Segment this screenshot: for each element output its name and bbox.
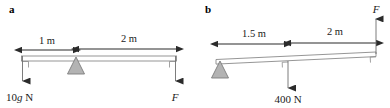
panel-b-label: b	[205, 4, 211, 15]
panel-a-drawing: 1 m 2 m 10g N F	[0, 0, 195, 108]
panel-b-dim-left-text: 1.5 m	[242, 28, 266, 39]
panel-a-force-applied-label: F	[171, 91, 179, 103]
physics-diagram-figure: a 1 m 2 m	[0, 0, 390, 108]
panel-b-dim-right-text: 2 m	[327, 26, 343, 37]
panel-a-right-angle-right	[170, 62, 176, 68]
panel-a-beam	[22, 56, 177, 61]
panel-a-right-angle-left	[23, 62, 29, 68]
panel-b-right-angle-right	[370, 57, 376, 63]
panel-b-force-load-label: 400 N	[274, 93, 301, 105]
panel-b-force-applied-label: F	[372, 3, 380, 15]
panel-b-beam	[216, 52, 376, 64]
panel-a-label: a	[9, 4, 15, 15]
panel-b-right-angle-load	[282, 62, 288, 68]
panel-b-drawing: F 1.5 m 2 m 400 N	[195, 0, 390, 108]
diagram-panel-b: b F 1.5 m 2 m	[195, 0, 390, 108]
diagram-panel-a: a 1 m 2 m	[0, 0, 195, 108]
panel-a-dim-left-text: 1 m	[39, 35, 55, 46]
panel-a-force-weight-label: 10g N	[6, 91, 33, 103]
panel-a-dim-right-text: 2 m	[121, 33, 137, 44]
